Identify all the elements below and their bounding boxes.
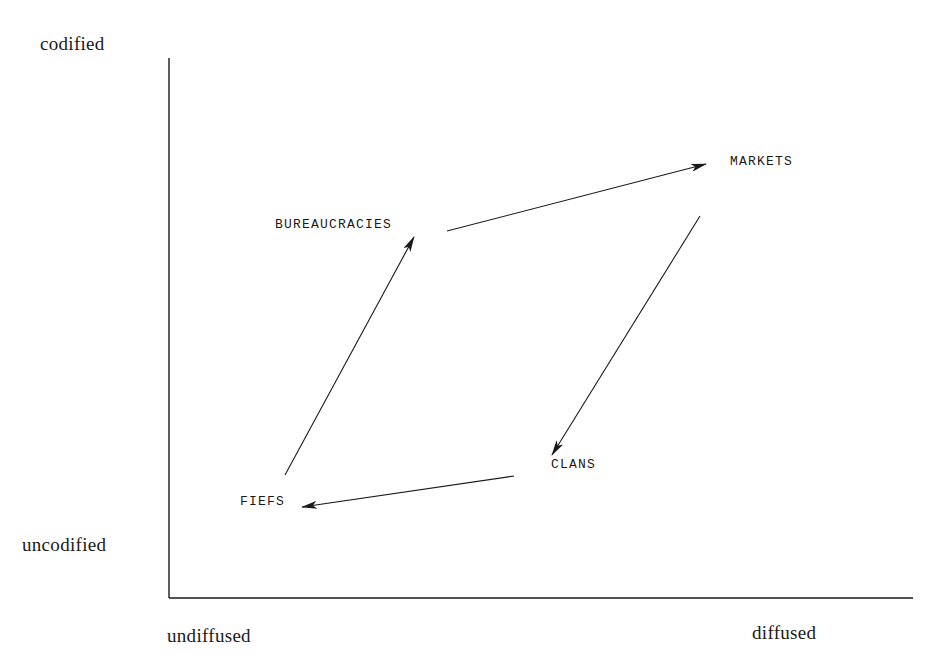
arrow-bureaucracies-to-markets xyxy=(447,164,706,231)
node-fiefs: FIEFS xyxy=(240,494,285,509)
arrow-clans-to-fiefs xyxy=(302,476,514,507)
node-clans: CLANS xyxy=(551,457,596,472)
node-markets: MARKETS xyxy=(730,154,793,169)
y-axis-top-label: codified xyxy=(40,33,105,55)
y-axis-bottom-label: uncodified xyxy=(22,534,106,556)
x-axis-right-label: diffused xyxy=(752,622,816,644)
arrow-markets-to-clans xyxy=(552,216,700,455)
x-axis-left-label: undiffused xyxy=(167,625,251,647)
arrow-fiefs-to-bureaucracies xyxy=(285,237,414,475)
diagram-canvas xyxy=(0,0,945,671)
node-bureaucracies: BUREAUCRACIES xyxy=(275,217,392,232)
